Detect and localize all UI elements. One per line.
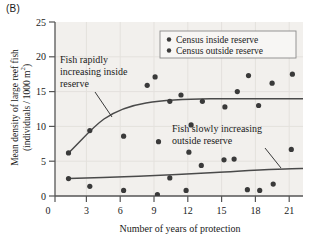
x-tick-label: 3 [84, 205, 89, 216]
data-point [222, 104, 227, 109]
x-tick-label: 6 [118, 205, 123, 216]
data-point [235, 89, 240, 94]
y-tick-label: 25 [36, 17, 46, 28]
legend-label-inside: Census inside reserve [176, 35, 258, 45]
legend-label-outside: Census outside reserve [176, 46, 263, 56]
y-tick-label: 0 [41, 191, 46, 202]
y-tick-label: 5 [41, 156, 46, 167]
data-point [200, 99, 205, 104]
x-tick-label: 18 [250, 205, 260, 216]
legend-marker-outside-icon [167, 48, 171, 52]
data-point [257, 188, 262, 193]
data-point [87, 184, 92, 189]
data-point [145, 83, 150, 88]
data-point [156, 139, 161, 144]
data-point [289, 147, 294, 152]
y-tick-label: 20 [36, 51, 46, 62]
x-tick-label: 9 [152, 205, 157, 216]
legend-marker-inside-icon [167, 37, 171, 41]
data-point [270, 81, 275, 86]
annotation-outside-line2: outside reserve [172, 135, 233, 146]
data-point [184, 188, 189, 193]
x-tick-label: 0 [46, 205, 51, 216]
data-point [87, 128, 92, 133]
data-point [66, 150, 71, 155]
data-point [186, 150, 191, 155]
x-tick-label: 15 [217, 205, 227, 216]
annotation-inside-line3: reserve [60, 78, 89, 89]
y-axis-tick-labels: 0 5 10 15 20 25 [36, 17, 46, 202]
data-point [167, 175, 172, 180]
y-axis-ticks [49, 22, 55, 196]
x-axis-tick-labels: 0 3 6 9 12 15 18 21 [46, 205, 295, 216]
data-point [246, 73, 251, 78]
data-point [232, 157, 237, 162]
data-point [256, 103, 261, 108]
data-point [178, 92, 183, 97]
data-point [153, 74, 158, 79]
scatter-plot: 0 5 10 15 20 25 0 3 6 9 12 15 18 2 [0, 0, 315, 243]
data-point [66, 176, 71, 181]
y-tick-label: 10 [36, 121, 46, 132]
y-tick-label: 15 [36, 86, 46, 97]
data-point [271, 182, 276, 187]
data-point [199, 163, 204, 168]
figure-panel-b: (B) Mean density of large reef fish (ind… [0, 0, 315, 243]
x-tick-label: 21 [284, 205, 294, 216]
data-point [221, 157, 226, 162]
data-point [167, 99, 172, 104]
data-point [245, 187, 250, 192]
legend: Census inside reserve Census outside res… [160, 31, 296, 58]
data-point [121, 134, 126, 139]
annotation-outside-line1: Fish slowly increasing [172, 123, 262, 134]
data-point [121, 188, 126, 193]
data-point [290, 72, 295, 77]
annotation-inside-line2: increasing inside [60, 66, 128, 77]
x-tick-label: 12 [183, 205, 193, 216]
x-axis-ticks [55, 196, 289, 202]
annotation-inside-line1: Fish rapidly [60, 54, 108, 65]
